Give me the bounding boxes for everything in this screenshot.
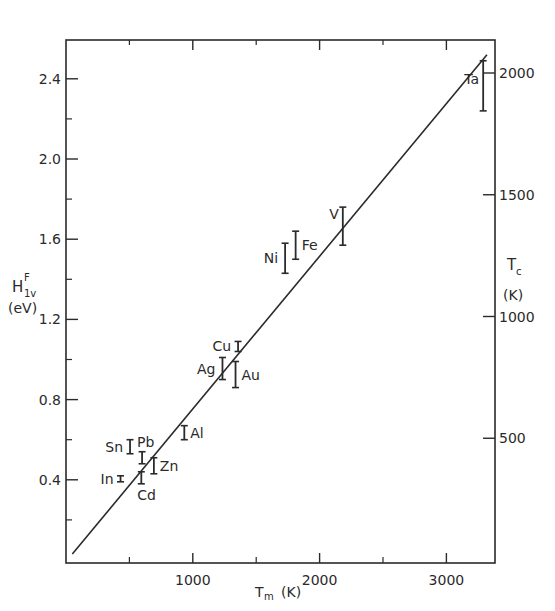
data-point-fe: Fe — [292, 231, 317, 259]
y-tick-label: 2.0 — [39, 151, 61, 167]
y2-axis-title: T c (K) — [503, 256, 523, 303]
y-tick-label: 0.4 — [39, 472, 61, 488]
data-point-label: In — [101, 471, 114, 487]
data-point-label: Ni — [264, 250, 278, 266]
x-tick-label: 3000 — [429, 572, 465, 588]
data-point-label: Fe — [302, 237, 318, 253]
fit-line — [72, 55, 487, 554]
data-point-zn: Zn — [150, 458, 178, 474]
y2-tick-label: 2000 — [499, 65, 535, 81]
y-tick-label: 1.6 — [39, 231, 61, 247]
data-point-label: Cu — [212, 338, 231, 354]
y2-tick-label: 1500 — [499, 187, 535, 203]
data-point-ag: Ag — [197, 357, 226, 379]
y-axis-unit: (eV) — [8, 300, 37, 316]
data-point-v: V — [329, 206, 346, 245]
y-tick-label: 1.2 — [39, 311, 61, 327]
data-point-ni: Ni — [264, 243, 289, 273]
y-tick-label: 0.8 — [39, 392, 61, 408]
x-axis-title: T m (K) — [254, 584, 301, 602]
data-point-label: Sn — [105, 439, 123, 455]
data-point-label: Zn — [160, 458, 178, 474]
data-point-au: Au — [232, 362, 260, 388]
x-tick-label: 1000 — [175, 572, 211, 588]
y2-axis-title-sub: c — [516, 266, 522, 277]
data-point-label: Cd — [137, 487, 156, 503]
x-axis-unit: (K) — [281, 584, 301, 600]
y2-axis-unit: (K) — [503, 287, 523, 303]
data-point-label: Al — [190, 425, 203, 441]
y2-tick-label: 500 — [499, 430, 526, 446]
y-tick-label: 2.4 — [39, 71, 61, 87]
fit-line-path — [72, 55, 487, 554]
y2-tick-label: 1000 — [499, 309, 535, 325]
y-axis-title-sub: 1v — [24, 288, 36, 299]
x-axis-title-main: T — [254, 584, 264, 600]
chart: 1000200030000.40.81.21.62.02.45001000150… — [0, 0, 555, 611]
y-axis-title-main: H — [12, 278, 23, 296]
data-point-label: Pb — [137, 434, 154, 450]
y-axis-title: H F 1v (eV) — [8, 272, 37, 316]
data-points: InSnPbCdZnAlCuAgAuNiFeVTa — [101, 61, 487, 503]
data-point-label: Ta — [463, 71, 479, 87]
data-point-label: V — [329, 206, 339, 222]
tick-labels: 1000200030000.40.81.21.62.02.45001000150… — [39, 65, 535, 588]
x-axis-title-sub: m — [264, 591, 274, 602]
data-point-label: Au — [242, 367, 260, 383]
data-point-al: Al — [181, 425, 204, 441]
data-point-in: In — [101, 471, 125, 487]
data-point-sn: Sn — [105, 439, 133, 455]
data-point-cu: Cu — [212, 338, 241, 354]
y-axis-title-sup: F — [24, 272, 30, 283]
data-point-cd: Cd — [137, 472, 156, 503]
x-tick-label: 2000 — [302, 572, 338, 588]
data-point-label: Ag — [197, 361, 215, 377]
